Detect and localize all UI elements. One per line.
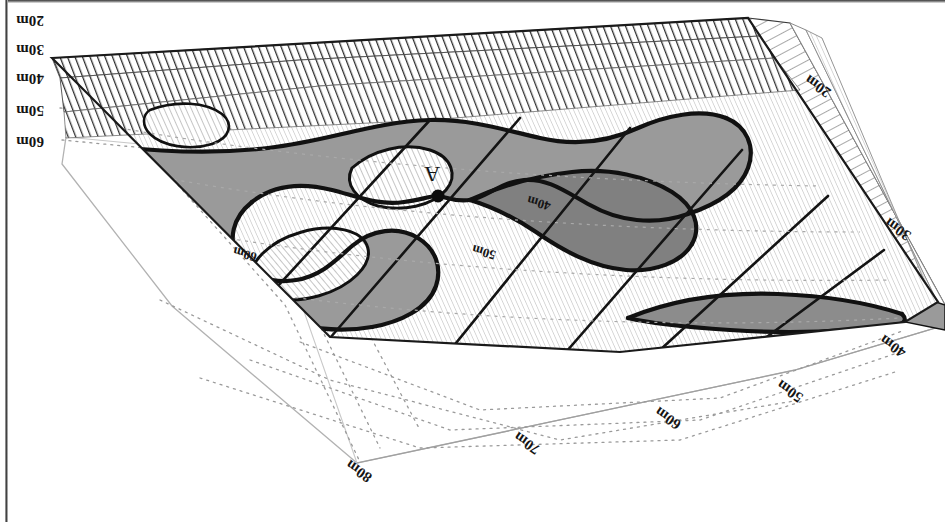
block-diagram-canvas xyxy=(0,0,945,522)
point-label-a: A xyxy=(424,161,440,187)
figure-page: 20m30m40m50m60m20m30m40m50m60m70m80m40m5… xyxy=(0,0,945,522)
axis-label-left-2: 30m xyxy=(16,41,44,58)
point-a-marker xyxy=(432,190,445,203)
axis-label-left-3: 40m xyxy=(16,70,44,87)
axis-label-left-1: 20m xyxy=(16,12,44,29)
axis-label-left-4: 50m xyxy=(16,102,44,119)
axis-label-left-5: 60m xyxy=(16,133,44,150)
